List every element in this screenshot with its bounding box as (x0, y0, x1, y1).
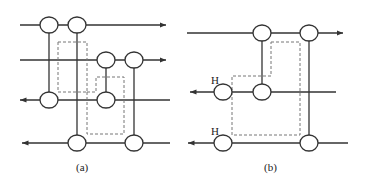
node (68, 135, 86, 151)
node-h (214, 135, 232, 151)
node-label-h1: H (211, 74, 219, 86)
node (125, 135, 143, 151)
caption-a: (a) (76, 161, 89, 174)
node (253, 25, 271, 41)
node-label-h2: H (211, 125, 219, 137)
node (253, 84, 271, 100)
diagram-canvas: (a) H H (b) (0, 0, 367, 185)
caption-b: (b) (264, 161, 277, 174)
node (97, 92, 115, 108)
diagram-b: H H (b) (187, 25, 348, 174)
node (40, 17, 58, 33)
node (300, 25, 318, 41)
node (40, 92, 58, 108)
node-h (214, 84, 232, 100)
node (125, 52, 143, 68)
diagram-a: (a) (20, 17, 170, 174)
dashed-region-1 (58, 42, 87, 92)
node (68, 17, 86, 33)
node (97, 52, 115, 68)
node (300, 135, 318, 151)
